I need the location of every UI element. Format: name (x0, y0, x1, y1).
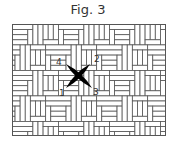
basket-weave-diagram: 4 2 1 3 (0, 0, 176, 145)
label-4: 4 (56, 57, 62, 67)
label-1: 1 (59, 88, 65, 98)
label-3: 3 (93, 87, 99, 97)
weave-pattern (0, 0, 176, 145)
label-2: 2 (94, 54, 100, 64)
